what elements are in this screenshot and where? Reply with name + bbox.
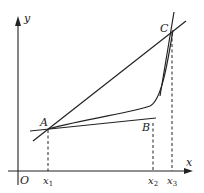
label-A: A [39,116,48,129]
tick-labels: x1 x2 x3 [43,175,177,188]
y-axis-label: y [23,12,31,25]
label-B: B [141,121,150,134]
tick-x2: x2 [148,175,158,188]
math-diagram: A B C y x O x1 x2 x3 [0,0,204,193]
tick-x3: x3 [167,175,177,188]
label-C: C [160,22,169,35]
axes [8,16,193,185]
y-axis-arrow-icon [15,16,21,26]
tick-x1: x1 [43,175,53,188]
origin-label: O [20,174,29,187]
projection-lines [48,33,172,171]
x-axis-label: x [186,156,193,169]
axis-labels: y x O [20,12,193,187]
